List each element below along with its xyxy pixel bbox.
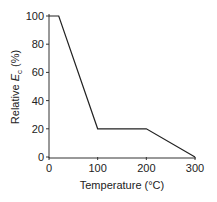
x-tick-label: 0 — [46, 162, 52, 174]
y-tick-label: 60 — [32, 66, 44, 78]
axes — [49, 14, 196, 158]
data-line — [49, 16, 195, 157]
y-tick-label: 0 — [38, 151, 44, 163]
chart: 020406080100 0100200300 Temperature (°C)… — [0, 0, 217, 202]
y-tick-label: 40 — [32, 95, 44, 107]
y-axis-label: Relative Ec (%) — [9, 50, 24, 124]
x-tick-label: 200 — [137, 162, 155, 174]
x-axis-label: Temperature (°C) — [80, 179, 164, 191]
y-ticks: 020406080100 — [26, 10, 49, 163]
y-tick-label: 20 — [32, 123, 44, 135]
x-tick-label: 300 — [186, 162, 204, 174]
x-tick-label: 100 — [88, 162, 106, 174]
x-ticks: 0100200300 — [46, 157, 204, 174]
y-tick-label: 100 — [26, 10, 44, 22]
y-tick-label: 80 — [32, 38, 44, 50]
